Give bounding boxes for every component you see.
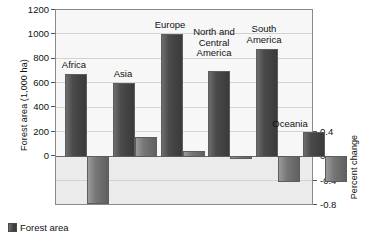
legend-label-forest-area: Forest area: [20, 222, 69, 233]
y-tick-label-1200: 1200: [17, 4, 49, 15]
group-label-north-central-america: North and Central America: [186, 27, 242, 59]
bar-percent-change-asia: [135, 137, 157, 157]
group-label-africa: Africa: [50, 60, 98, 71]
y-right-tick-neg0point4: [313, 180, 317, 181]
chart-legend: Forest area: [8, 222, 69, 233]
bar-percent-change-south-america: [278, 156, 300, 182]
bar-forest-area-asia: [113, 83, 135, 157]
y-right-tick-neg0point8: [313, 204, 317, 205]
bar-percent-change-oceania: [325, 156, 347, 182]
bar-forest-area-south-america: [256, 49, 278, 157]
y-tick-label-0: 0: [17, 150, 49, 161]
bar-percent-change-europe: [183, 151, 205, 157]
group-label-south-america: South America: [240, 24, 288, 45]
bar-percent-change-africa: [87, 156, 109, 204]
forest-area-chart-figure: Forest area (1,000 ha) Percent change 12…: [0, 0, 366, 236]
y-tick-label-1000: 1000: [17, 28, 49, 39]
y-tick-label-600: 600: [17, 77, 49, 88]
bar-forest-area-north-central-america: [208, 71, 230, 157]
y-right-label-neg0point8: -0.8: [320, 199, 336, 210]
y-tick-label-400: 400: [17, 101, 49, 112]
group-label-asia: Asia: [99, 69, 147, 80]
y-axis-right-title: Percent change: [349, 107, 359, 227]
y-tick-label-200: 200: [17, 126, 49, 137]
group-label-oceania: Oceania: [266, 119, 314, 130]
bar-percent-change-north-central-america: [230, 156, 252, 159]
y-tick-label-800: 800: [17, 52, 49, 63]
legend-swatch-forest-area: [8, 223, 17, 232]
bar-forest-area-europe: [161, 34, 183, 157]
bar-forest-area-africa: [65, 74, 87, 157]
bar-forest-area-oceania: [303, 132, 325, 157]
